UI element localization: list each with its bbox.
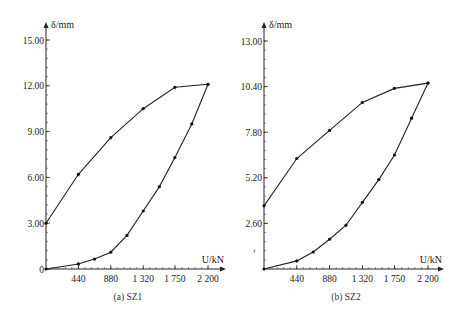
data-point bbox=[262, 204, 265, 207]
x-tick-label: 880 bbox=[104, 274, 119, 284]
data-point bbox=[77, 173, 80, 176]
data-point bbox=[361, 101, 364, 104]
data-point bbox=[142, 209, 145, 212]
y-tick-label: 15.00 bbox=[23, 36, 45, 46]
x-axis-title: U/kN bbox=[202, 254, 224, 265]
x-tick-label: 1 750 bbox=[164, 274, 186, 284]
chart-panel-1: 4408801 3201 7502 20003.006.009.0012.001… bbox=[23, 19, 226, 303]
y-axis-arrow-icon bbox=[44, 22, 49, 28]
data-point bbox=[361, 201, 364, 204]
data-point bbox=[109, 136, 112, 139]
data-point bbox=[377, 178, 380, 181]
data-point bbox=[190, 122, 193, 125]
y-tick-label: 9.00 bbox=[27, 127, 44, 137]
y-tick-label: 6.00 bbox=[27, 173, 44, 183]
x-tick-label: 880 bbox=[322, 274, 337, 284]
data-point bbox=[393, 153, 396, 156]
data-point bbox=[328, 129, 331, 132]
data-point bbox=[158, 185, 161, 188]
x-tick-label: 1 320 bbox=[133, 274, 155, 284]
data-point bbox=[109, 251, 112, 254]
y-tick-label: 10.40 bbox=[241, 82, 263, 92]
data-point bbox=[410, 117, 413, 120]
data-point bbox=[125, 234, 128, 237]
series-line-2 bbox=[46, 84, 208, 269]
x-tick-label: 1 320 bbox=[352, 274, 374, 284]
data-point bbox=[206, 83, 209, 86]
x-tick-label: 440 bbox=[71, 274, 86, 284]
svg-text:ʼ: ʼ bbox=[253, 249, 256, 259]
y-axis-title: δ/mm bbox=[51, 19, 74, 30]
x-axis-arrow-icon bbox=[220, 267, 226, 272]
data-point bbox=[262, 267, 265, 270]
data-point bbox=[173, 156, 176, 159]
data-point bbox=[173, 86, 176, 89]
data-point bbox=[295, 157, 298, 160]
y-axis-title: δ/mm bbox=[269, 19, 292, 30]
x-tick-label: 2 200 bbox=[197, 274, 219, 284]
panel-caption: (a) SZ1 bbox=[114, 292, 143, 303]
y-tick-label: 7.80 bbox=[245, 128, 262, 138]
data-point bbox=[77, 262, 80, 265]
x-axis-arrow-icon bbox=[438, 267, 444, 272]
series-line-2 bbox=[264, 83, 428, 269]
x-axis-title: U/kN bbox=[420, 254, 442, 265]
y-tick-label: 5.20 bbox=[245, 173, 262, 183]
data-point bbox=[44, 222, 47, 225]
y-tick-label: 3.00 bbox=[27, 219, 44, 229]
y-tick-label: 12.00 bbox=[23, 81, 45, 91]
y-axis-arrow-icon bbox=[262, 22, 267, 28]
y-tick-label: 0 bbox=[39, 265, 44, 275]
chart-canvas: 4408801 3201 7502 20003.006.009.0012.001… bbox=[0, 0, 473, 325]
data-point bbox=[426, 81, 429, 84]
x-tick-label: 440 bbox=[290, 274, 305, 284]
data-point bbox=[142, 107, 145, 110]
panel-caption: (b) SZ2 bbox=[331, 292, 361, 303]
data-point bbox=[393, 87, 396, 90]
chart-panel-2: 4408801 3201 7502 2002.605.207.8010.4013… bbox=[241, 19, 444, 303]
data-point bbox=[44, 267, 47, 270]
series-line-1 bbox=[264, 83, 428, 206]
data-point bbox=[312, 250, 315, 253]
x-tick-label: 2 200 bbox=[417, 274, 439, 284]
x-tick-label: 1 750 bbox=[384, 274, 406, 284]
data-point bbox=[93, 257, 96, 260]
data-point bbox=[328, 238, 331, 241]
data-point bbox=[295, 259, 298, 262]
data-point bbox=[344, 224, 347, 227]
y-tick-label: 13.00 bbox=[241, 37, 263, 47]
series-line-1 bbox=[46, 84, 208, 223]
y-tick-label: 2.60 bbox=[245, 219, 262, 229]
